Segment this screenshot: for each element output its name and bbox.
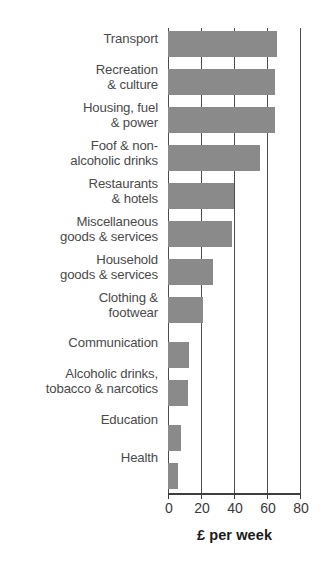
category-label-miscellaneous: Miscellaneous goods & services bbox=[0, 215, 163, 244]
category-label-restaurants: Restaurants & hotels bbox=[0, 177, 163, 206]
x-tick-label-0: 0 bbox=[165, 500, 173, 516]
bar-transport bbox=[168, 31, 277, 57]
x-tick-0 bbox=[168, 493, 169, 499]
gridline-60 bbox=[267, 28, 268, 493]
x-axis-title: £ per week bbox=[168, 527, 301, 543]
x-tick-20 bbox=[201, 493, 202, 499]
bar-recreation bbox=[168, 69, 275, 95]
x-tick-80 bbox=[300, 493, 301, 499]
x-tick-label-60: 60 bbox=[260, 500, 276, 516]
category-label-clothing: Clothing & footwear bbox=[0, 291, 163, 320]
category-label-alcoholic: Alcoholic drinks, tobacco & narcotics bbox=[0, 367, 163, 396]
x-tick-label-20: 20 bbox=[194, 500, 210, 516]
x-tick-40 bbox=[234, 493, 235, 499]
category-label-food: Foof & non- alcoholic drinks bbox=[0, 139, 163, 168]
category-label-communication: Communication bbox=[0, 336, 163, 351]
x-tick-60 bbox=[267, 493, 268, 499]
category-label-housing: Housing, fuel & power bbox=[0, 101, 163, 130]
gridline-40 bbox=[234, 28, 235, 493]
bar-health bbox=[168, 463, 178, 489]
bar-restaurants bbox=[168, 183, 234, 209]
bar-household bbox=[168, 259, 213, 285]
category-label-health: Health bbox=[0, 451, 163, 466]
category-label-transport: Transport bbox=[0, 32, 163, 47]
x-tick-label-80: 80 bbox=[293, 500, 309, 516]
bar-miscellaneous bbox=[168, 221, 232, 247]
category-label-education: Education bbox=[0, 413, 163, 428]
bar-clothing bbox=[168, 297, 203, 323]
bar-housing bbox=[168, 107, 275, 133]
bar-food bbox=[168, 145, 260, 171]
bar-education bbox=[168, 425, 181, 451]
plot-area bbox=[168, 28, 300, 493]
category-label-recreation: Recreation & culture bbox=[0, 63, 163, 92]
bar-communication bbox=[168, 342, 189, 368]
bar-alcoholic bbox=[168, 380, 188, 406]
x-tick-label-40: 40 bbox=[227, 500, 243, 516]
category-label-household: Household goods & services bbox=[0, 253, 163, 282]
gridline-80 bbox=[300, 28, 301, 493]
category-label-column: Transport Recreation & culture Housing, … bbox=[0, 0, 163, 570]
bar-chart: Transport Recreation & culture Housing, … bbox=[0, 0, 324, 570]
